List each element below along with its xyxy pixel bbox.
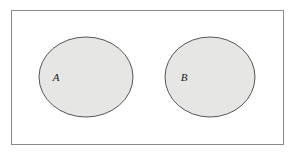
set-label-b: B [181,71,188,83]
set-ellipse-b [165,37,255,117]
set-label-a: A [52,71,60,83]
set-diagram: A B [0,0,294,154]
diagram-canvas: A B [0,0,294,154]
